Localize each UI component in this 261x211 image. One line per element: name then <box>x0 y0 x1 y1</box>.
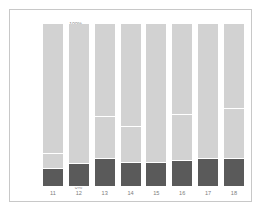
bar-segment[interactable] <box>172 88 192 116</box>
x-axis-tick-label: 14 <box>121 189 141 201</box>
bar-column[interactable] <box>95 24 115 187</box>
bar-column[interactable] <box>43 24 63 187</box>
chart-card: 100%80%60%40%20%0% 1112131415161718 <box>9 9 252 202</box>
bar-segment[interactable] <box>43 24 63 57</box>
bar-segment-base[interactable] <box>224 159 244 187</box>
bar-segment[interactable] <box>198 24 218 106</box>
bar-column[interactable] <box>146 24 166 187</box>
bar-segment[interactable] <box>43 57 63 155</box>
bar-segment[interactable] <box>224 24 244 71</box>
bar-column[interactable] <box>121 24 141 187</box>
bar-segment[interactable] <box>224 109 244 160</box>
bar-segment[interactable] <box>224 71 244 108</box>
x-axis-tick-label: 12 <box>69 189 89 201</box>
plot-area <box>43 24 244 187</box>
bar-segment[interactable] <box>69 24 89 68</box>
x-axis-tick-label: 16 <box>172 189 192 201</box>
bar-column[interactable] <box>224 24 244 187</box>
bar-segment-base[interactable] <box>69 164 89 187</box>
bar-segment[interactable] <box>43 154 63 169</box>
x-axis-tick-label: 13 <box>95 189 115 201</box>
bar-segment[interactable] <box>95 117 115 159</box>
x-axis-tick-label: 17 <box>198 189 218 201</box>
bar-segment[interactable] <box>121 127 141 163</box>
bar-segment[interactable] <box>172 115 192 161</box>
bar-column[interactable] <box>198 24 218 187</box>
x-axis-tick-label: 11 <box>43 189 63 201</box>
bar-column[interactable] <box>69 24 89 187</box>
bar-column[interactable] <box>172 24 192 187</box>
bar-segment-base[interactable] <box>198 159 218 187</box>
bar-segment[interactable] <box>95 24 115 71</box>
bar-segment[interactable] <box>172 24 192 88</box>
x-axis: 1112131415161718 <box>43 189 244 201</box>
bar-segment[interactable] <box>146 66 166 162</box>
bar-segment-base[interactable] <box>146 163 166 187</box>
bar-segment-base[interactable] <box>121 163 141 187</box>
bar-segment[interactable] <box>121 24 141 86</box>
bar-segment[interactable] <box>146 24 166 66</box>
bar-segment[interactable] <box>95 71 115 117</box>
x-axis-tick-label: 15 <box>146 189 166 201</box>
bar-segment-base[interactable] <box>95 159 115 187</box>
x-axis-tick-label: 18 <box>224 189 244 201</box>
chart-plot-wrapper: 100%80%60%40%20%0% 1112131415161718 <box>10 10 251 201</box>
bar-segment[interactable] <box>121 86 141 127</box>
bar-segment-base[interactable] <box>43 169 63 187</box>
bar-segment[interactable] <box>198 106 218 160</box>
bar-segment-base[interactable] <box>172 161 192 187</box>
bar-segment[interactable] <box>69 68 89 164</box>
